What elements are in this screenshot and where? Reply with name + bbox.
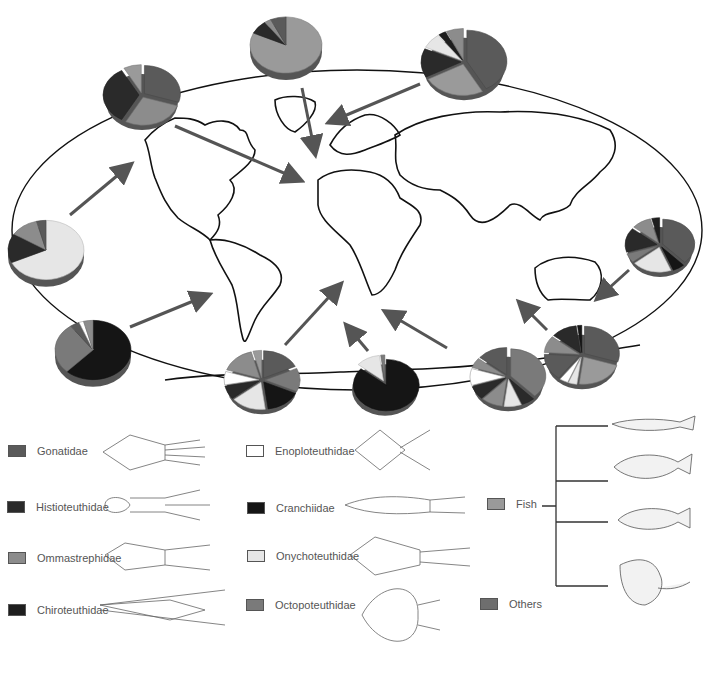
cranchiidae-illustration <box>345 497 465 514</box>
legend-others: Others <box>480 598 542 610</box>
legend-label: Histioteuthidae <box>36 501 109 513</box>
flow-arrow <box>175 126 300 180</box>
asia <box>395 112 615 223</box>
onychoteuthidae-illustration <box>350 537 470 575</box>
flow-arrow <box>598 270 629 298</box>
australia <box>535 257 601 300</box>
legend-gonatidae: Gonatidae <box>8 445 88 457</box>
stingray-icon <box>620 560 690 605</box>
diagram-stage: Gonatidae Histioteuthidae Ommastrephidae… <box>0 0 705 674</box>
flow-arrow <box>330 84 420 122</box>
chiroteuthidae-illustration <box>100 590 225 625</box>
legend-label: Octopoteuthidae <box>275 599 356 611</box>
pie-south-east-pacific <box>55 320 131 386</box>
legend-label: Fish <box>516 498 537 510</box>
flow-arrow <box>70 165 130 215</box>
pie-greenland <box>250 17 322 80</box>
legend-enoploteuthidae: Enoploteuthidae <box>246 445 355 457</box>
south-america <box>210 240 281 342</box>
pie-south-atlantic-west <box>224 350 300 414</box>
legend-label: Ommastrephidae <box>37 552 121 564</box>
flow-arrow <box>520 303 547 330</box>
flow-arrow <box>285 285 340 345</box>
flatfish-icon <box>618 508 690 529</box>
legend-fish: Fish <box>487 498 537 510</box>
pie-east-pacific <box>8 220 84 286</box>
histioteuthidae-illustration <box>105 490 210 520</box>
legend-swatch-gonatidae <box>8 445 26 457</box>
legend-label: Cranchiidae <box>276 502 335 514</box>
legend-swatch-octopoteuthidae <box>246 599 264 611</box>
europe <box>330 115 400 155</box>
fish-tree <box>542 426 608 586</box>
legend-swatch-ommastrephidae <box>8 552 26 564</box>
pie-south-atlantic-east <box>352 355 419 416</box>
legend-ommastrephidae: Ommastrephidae <box>8 552 121 564</box>
flow-arrow <box>130 295 208 327</box>
pie-north-pacific-east <box>103 65 180 130</box>
legend-swatch-histioteuthidae <box>7 501 25 513</box>
legend-onychoteuthidae: Onychoteuthidae <box>247 550 359 562</box>
pie-tasman <box>625 218 695 277</box>
octopoteuthidae-illustration <box>362 589 440 642</box>
hake-icon <box>612 416 695 430</box>
legend-label: Others <box>509 598 542 610</box>
flow-arrow <box>302 88 315 153</box>
africa <box>318 170 421 295</box>
fish-illustrations <box>612 416 695 605</box>
pie-south-indian-east <box>544 325 619 389</box>
legend-swatch-chiroteuthidae <box>8 604 26 616</box>
pie-south-indian-west <box>470 348 546 412</box>
legend-label: Gonatidae <box>37 445 88 457</box>
pie-charts <box>8 17 695 416</box>
world-map <box>0 0 705 674</box>
gonatidae-illustration <box>103 435 205 470</box>
legend-octopoteuthidae: Octopoteuthidae <box>246 599 356 611</box>
legend-swatch-others <box>480 598 498 610</box>
pie-north-pacific-west <box>421 29 507 101</box>
flow-arrow <box>347 326 368 351</box>
legend-swatch-enoploteuthidae <box>246 445 264 457</box>
legend-swatch-fish <box>487 498 505 510</box>
legend-swatch-cranchiidae <box>247 502 265 514</box>
enoploteuthidae-illustration <box>355 430 430 470</box>
rockfish-icon <box>614 454 692 478</box>
legend-chiroteuthidae: Chiroteuthidae <box>8 604 109 616</box>
legend-histioteuthidae: Histioteuthidae <box>7 501 109 513</box>
legend-label: Chiroteuthidae <box>37 604 109 616</box>
legend-swatch-onychoteuthidae <box>247 550 265 562</box>
legend-label: Onychoteuthidae <box>276 550 359 562</box>
legend-cranchiidae: Cranchiidae <box>247 502 335 514</box>
legend-label: Enoploteuthidae <box>275 445 355 457</box>
flow-arrow <box>386 312 447 348</box>
